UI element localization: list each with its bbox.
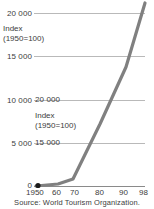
x-tick-label-1980: 80 xyxy=(95,188,104,197)
plot-area: 20 000 15 000 10 000 5 000 0 Index (1950… xyxy=(0,0,154,190)
series-line xyxy=(0,0,154,190)
tourism-index-chart: 20 000 15 000 10 000 5 000 0 Index (1950… xyxy=(0,0,154,209)
source-caption: Source: World Tourism Organization. xyxy=(0,198,154,207)
x-tick-label-1950: 1950 xyxy=(26,188,44,197)
x-tick-label-1970: 70 xyxy=(70,188,79,197)
x-tick-label-1990: 90 xyxy=(119,188,128,197)
x-tick-label-1960: 60 xyxy=(52,188,61,197)
series-polyline xyxy=(36,3,145,186)
x-tick-label-1998: 98 xyxy=(139,188,148,197)
